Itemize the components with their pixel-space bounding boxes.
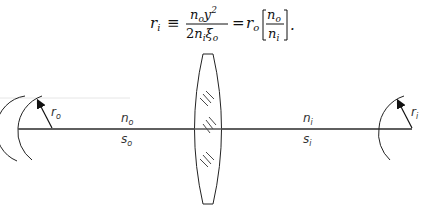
label-r-o: ro (51, 105, 61, 121)
lens-diagram: ro no so ni si ri (0, 0, 434, 214)
label-n-o: no (121, 111, 134, 127)
r-o-arrow (38, 101, 52, 128)
r-i-arrow (398, 101, 412, 128)
label-r-i: ri (411, 105, 419, 121)
label-n-i: ni (303, 111, 314, 127)
label-s-i: si (303, 132, 312, 148)
object-wavefront (18, 96, 42, 160)
label-s-o: so (121, 132, 132, 148)
